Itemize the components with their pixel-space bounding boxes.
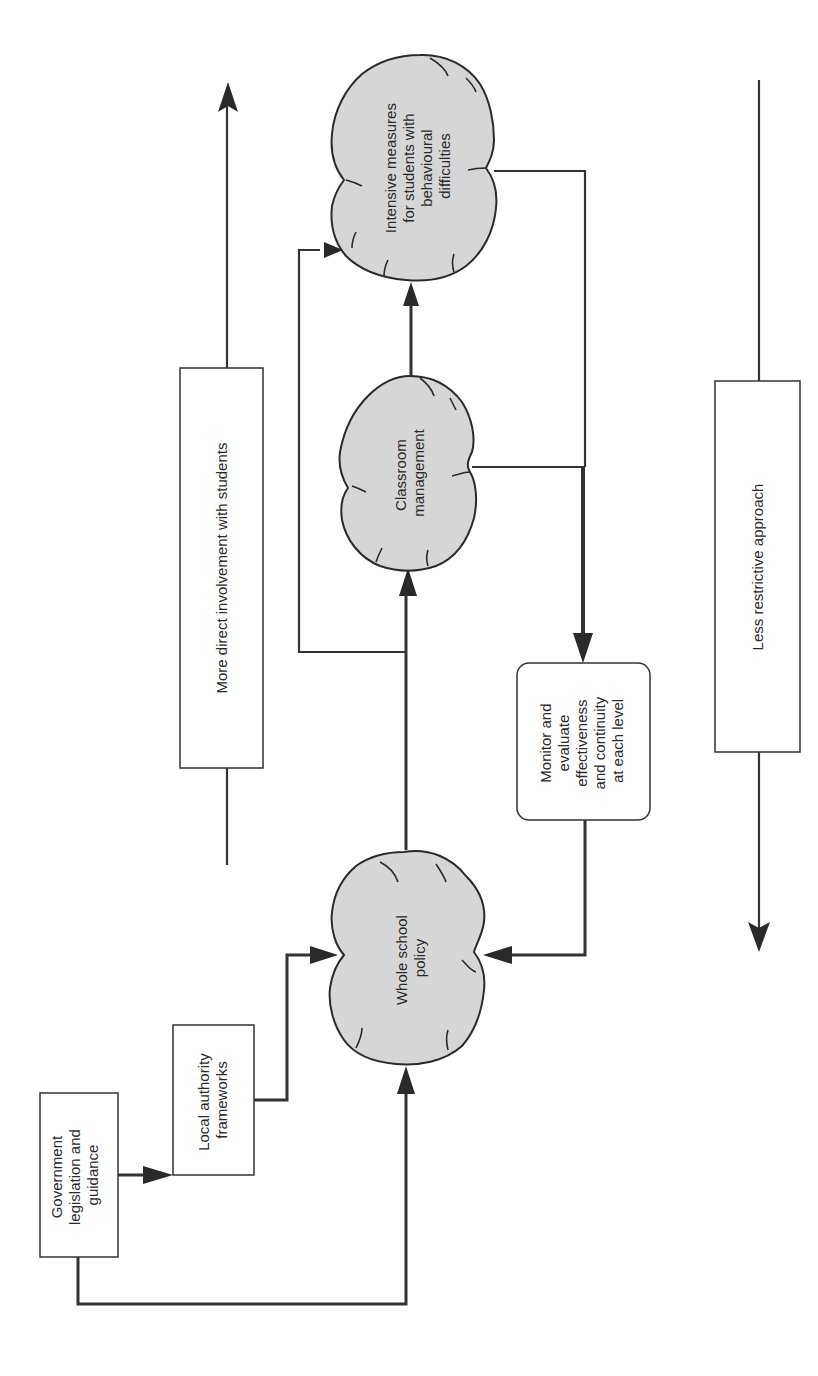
- node-monitor: Monitor and evaluate effectiveness and c…: [517, 663, 650, 820]
- edge-intensive-to-monitor: [494, 171, 585, 467]
- diagram-canvas: Government legislation and guidance Loca…: [0, 0, 818, 1376]
- edge-monitor-to-whole-school: [508, 820, 585, 955]
- node-whole-school: Whole school policy: [330, 851, 485, 1064]
- more-direct-label: More direct involvement with students: [213, 443, 230, 694]
- arrowhead-up-icon: [399, 568, 417, 596]
- node-government: Government legislation and guidance: [40, 1093, 118, 1257]
- arrowhead-left-icon: [483, 946, 512, 964]
- arrowhead-right-icon: [310, 946, 338, 964]
- monitor-label: Monitor and evaluate effectiveness and c…: [537, 693, 626, 790]
- classroom-label: Classroom management: [392, 428, 427, 516]
- node-more-direct: More direct involvement with students: [180, 368, 263, 768]
- arrowhead-up-icon: [397, 1066, 415, 1094]
- node-classroom: Classroom management: [339, 376, 476, 571]
- arrowhead-down-icon: [573, 633, 593, 663]
- node-local-authority: Local authority frameworks: [173, 1025, 254, 1175]
- node-less-restrictive: Less restrictive approach: [715, 381, 800, 752]
- node-intensive: Intensive measures for students with beh…: [332, 55, 497, 281]
- local-authority-label: Local authority frameworks: [195, 1049, 230, 1151]
- arrowhead-up-icon: [403, 282, 419, 306]
- edge-local-authority-to-whole-school: [254, 955, 312, 1100]
- less-restrictive-label: Less restrictive approach: [749, 484, 766, 651]
- arrowhead-right-icon: [143, 1166, 173, 1184]
